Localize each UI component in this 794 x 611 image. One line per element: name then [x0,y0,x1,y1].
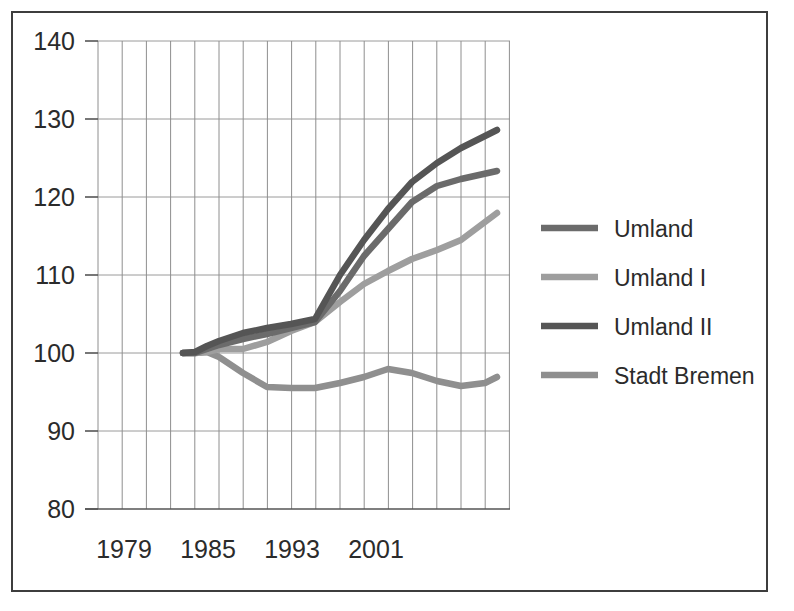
y-tick-label-120: 120 [33,183,75,211]
x-tick-label-1993: 1993 [264,535,320,563]
y-tick-label-100: 100 [33,339,75,367]
horizontal-gridlines [98,41,510,431]
legend-label-umland-ii: Umland II [614,314,712,340]
legend-label-stadt-bremen: Stadt Bremen [614,363,755,389]
y-tick-label-90: 90 [47,417,75,445]
y-tick-marks [85,41,98,509]
y-tick-label-110: 110 [35,261,75,289]
legend-label-umland: Umland [614,216,693,242]
chart-legend: Umland Umland I Umland II Stadt Bremen [541,216,755,389]
x-tick-label-2001: 2001 [348,535,404,563]
y-tick-label-130: 130 [33,105,75,133]
legend-label-umland-i: Umland I [614,265,706,291]
x-tick-label-1985: 1985 [180,535,236,563]
x-axis-labels: 1979 1985 1993 2001 [96,535,404,563]
line-chart: 140 130 120 110 100 90 80 1979 1985 1993… [13,13,766,590]
y-axis-labels: 140 130 120 110 100 90 80 [33,27,75,523]
y-tick-label-140: 140 [33,27,75,55]
x-tick-label-1979: 1979 [96,535,152,563]
y-tick-label-80: 80 [47,495,75,523]
chart-frame: 140 130 120 110 100 90 80 1979 1985 1993… [11,11,768,592]
